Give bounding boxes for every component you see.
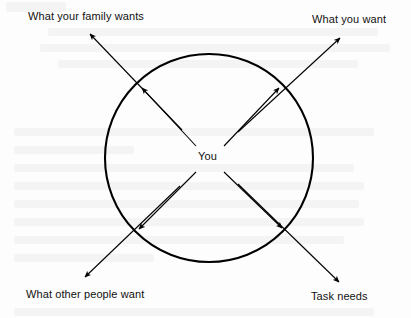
- inner-arrow-task: [224, 172, 282, 228]
- label-what-you-want: What you want: [312, 13, 386, 25]
- label-task-needs: Task needs: [311, 290, 368, 302]
- inner-arrow-others: [139, 172, 196, 229]
- outer-arrow-task: [238, 184, 339, 282]
- outer-arrow-others: [85, 186, 180, 277]
- label-what-other-people-want: What other people want: [26, 288, 144, 300]
- inner-arrow-you-want: [224, 88, 279, 146]
- outer-arrow-family: [90, 34, 182, 130]
- label-what-your-family-wants: What your family wants: [28, 10, 144, 22]
- diagram-canvas: What your family wants What you want Wha…: [0, 0, 411, 318]
- label-you-center: You: [196, 150, 219, 162]
- outer-arrow-you-want: [238, 38, 340, 132]
